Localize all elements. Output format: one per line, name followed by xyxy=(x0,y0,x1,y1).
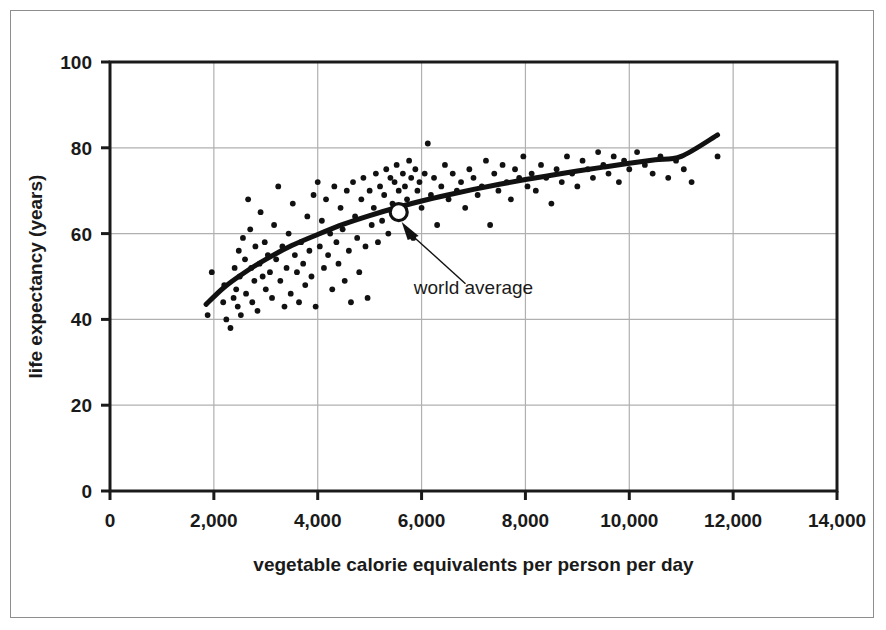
data-point xyxy=(394,162,400,168)
data-point xyxy=(392,179,398,185)
data-point xyxy=(344,188,350,194)
data-point xyxy=(442,162,448,168)
data-point xyxy=(404,196,410,202)
data-point xyxy=(419,205,425,211)
data-point xyxy=(231,295,237,301)
data-point xyxy=(242,256,248,262)
data-point xyxy=(388,175,394,181)
data-point xyxy=(665,175,671,181)
data-point xyxy=(408,175,414,181)
data-point xyxy=(450,171,456,177)
data-point xyxy=(235,304,241,310)
data-point xyxy=(538,162,544,168)
data-point xyxy=(533,188,539,194)
data-point xyxy=(689,179,695,185)
data-point xyxy=(554,166,560,172)
data-point xyxy=(377,184,383,190)
y-tick-label: 80 xyxy=(71,138,92,159)
data-point xyxy=(323,196,329,202)
data-point xyxy=(238,312,244,318)
x-tick-label: 2,000 xyxy=(190,510,238,531)
data-point xyxy=(294,269,300,275)
data-point xyxy=(302,282,308,288)
data-point xyxy=(350,179,356,185)
data-point xyxy=(267,269,273,275)
data-point xyxy=(205,312,211,318)
data-point xyxy=(315,179,321,185)
x-tick-label: 6,000 xyxy=(398,510,446,531)
scatter-chart: 02,0004,0006,0008,00010,00012,00014,0000… xyxy=(0,0,886,630)
data-point xyxy=(329,286,335,292)
data-point xyxy=(406,158,412,164)
data-point xyxy=(371,205,377,211)
data-point xyxy=(574,184,580,190)
data-point xyxy=(375,239,381,245)
data-point xyxy=(475,192,481,198)
data-point xyxy=(232,265,238,271)
data-point xyxy=(616,179,622,185)
world-average-marker xyxy=(390,204,407,221)
data-point xyxy=(483,158,489,164)
data-point xyxy=(508,196,514,202)
data-point xyxy=(512,166,518,172)
data-point xyxy=(300,261,306,267)
data-point xyxy=(369,222,375,228)
y-tick-label: 40 xyxy=(71,309,92,330)
data-point xyxy=(400,171,406,177)
data-point xyxy=(595,149,601,155)
data-point xyxy=(209,269,215,275)
data-point xyxy=(365,295,371,301)
annotation-arrowhead xyxy=(402,222,419,240)
data-point xyxy=(462,205,468,211)
data-point xyxy=(334,239,340,245)
x-tick-label: 0 xyxy=(105,510,116,531)
x-axis-title: vegetable calorie equivalents per person… xyxy=(253,554,694,575)
data-point xyxy=(580,158,586,164)
data-point xyxy=(626,166,632,172)
y-tick-label: 100 xyxy=(60,52,92,73)
data-point xyxy=(290,201,296,207)
y-tick-label: 0 xyxy=(81,481,92,502)
data-point xyxy=(383,166,389,172)
data-point xyxy=(282,304,288,310)
data-point xyxy=(269,295,275,301)
data-point xyxy=(245,196,251,202)
data-point xyxy=(681,166,687,172)
data-point xyxy=(336,261,342,267)
data-point xyxy=(500,162,506,168)
data-point xyxy=(325,252,331,258)
data-point xyxy=(319,218,325,224)
data-point xyxy=(223,317,229,323)
data-points xyxy=(205,141,721,331)
x-tick-label: 8,000 xyxy=(502,510,550,531)
data-point xyxy=(529,171,535,177)
data-point xyxy=(425,141,431,147)
data-point xyxy=(363,244,369,250)
data-point xyxy=(253,244,259,250)
data-point xyxy=(296,299,302,305)
data-point xyxy=(361,175,367,181)
data-point xyxy=(331,184,337,190)
x-tick-label: 4,000 xyxy=(294,510,342,531)
data-point xyxy=(342,278,348,284)
data-point xyxy=(311,192,317,198)
data-point xyxy=(415,188,421,194)
data-point xyxy=(243,291,249,297)
data-point xyxy=(491,171,497,177)
data-point xyxy=(564,153,570,159)
data-point xyxy=(233,286,239,292)
data-point xyxy=(348,299,354,305)
data-point xyxy=(650,171,656,177)
data-point xyxy=(606,171,612,177)
data-point xyxy=(346,248,352,254)
data-point xyxy=(284,265,290,271)
data-point xyxy=(422,171,428,177)
data-point xyxy=(385,231,391,237)
axis-labels: vegetable calorie equivalents per person… xyxy=(25,175,694,575)
data-point xyxy=(258,209,264,215)
data-point xyxy=(277,278,283,284)
data-point xyxy=(228,325,234,331)
data-point xyxy=(262,239,268,245)
data-point xyxy=(496,188,502,194)
data-point xyxy=(559,179,565,185)
